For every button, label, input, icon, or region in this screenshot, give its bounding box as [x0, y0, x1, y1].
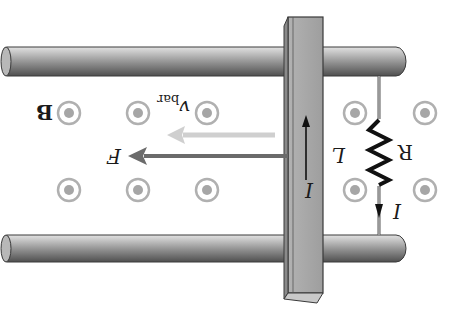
field-out-icon: [196, 179, 218, 201]
field-out-icon: [344, 179, 366, 201]
wire-current-arrow: [375, 204, 383, 218]
velocity-arrow: [167, 126, 275, 144]
wire-current-label: I: [392, 199, 402, 223]
field-out-icon: [127, 179, 149, 201]
field-out-icon: [58, 102, 80, 124]
field-label: B: [36, 100, 53, 124]
field-out-icon: [127, 102, 149, 124]
velocity-label: vbar: [156, 92, 190, 119]
field-out-icon: [344, 102, 366, 124]
figure-stage: B vbar F L R I I: [0, 0, 449, 326]
field-out-icon: [196, 102, 218, 124]
sliding-bar: [284, 17, 323, 303]
length-label: L: [332, 143, 346, 167]
force-label: F: [106, 144, 122, 168]
resistor-icon: [369, 120, 389, 185]
rail-top: [1, 235, 406, 262]
field-out-icon: [414, 102, 436, 124]
rail-bottom: [1, 47, 406, 76]
rail-bar-diagram: B vbar F L R I I: [0, 0, 449, 326]
field-out-icon: [58, 179, 80, 201]
resistance-label: R: [397, 140, 413, 164]
force-arrow: [128, 147, 288, 165]
bar-current-label: I: [304, 178, 314, 202]
field-out-icon: [414, 179, 436, 201]
